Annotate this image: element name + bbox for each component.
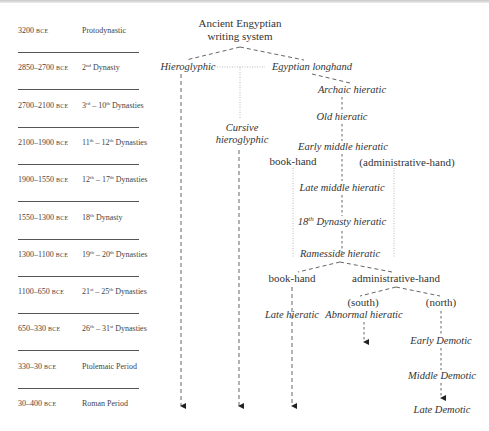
link-ramesside-adminhand — [340, 262, 392, 272]
node-middle-demotic: Middle Demotic — [408, 370, 476, 382]
node-administrative-hand-1: (administrative-hand) — [359, 156, 454, 169]
tree-connectors — [0, 0, 489, 431]
link-root-longhand — [240, 47, 304, 60]
node-root-line2: writing system — [199, 30, 282, 43]
node-early-middle-hieratic: Early middle hieratic — [298, 141, 388, 153]
link-longhand-archaic — [312, 74, 350, 83]
dynasty-hieratic-text: Dynasty hieratic — [314, 216, 386, 227]
node-old-hieratic: Old hieratic — [316, 111, 367, 123]
dynasty-number: 18 — [298, 216, 309, 227]
node-late-hieratic: Late hieratic — [265, 309, 319, 321]
node-cursive-line2: hieroglyphic — [216, 134, 269, 146]
node-early-demotic: Early Demotic — [410, 335, 472, 347]
link-admin-south — [360, 287, 396, 296]
link-root-hieroglyphic — [186, 47, 240, 60]
link-admin-north — [396, 287, 440, 296]
link-ramesside-bookhand — [298, 262, 340, 272]
node-book-hand-2: book-hand — [268, 272, 315, 285]
node-administrative-hand-2: administrative-hand — [352, 272, 440, 285]
node-18th-dynasty-hieratic: 18th Dynasty hieratic — [298, 215, 386, 228]
node-archaic-hieratic: Archaic hieratic — [318, 84, 386, 96]
node-north: (north) — [426, 296, 457, 309]
node-egyptian-longhand: Egyptian longhand — [272, 61, 352, 73]
node-root-line1: Ancient Engyptian — [199, 17, 282, 30]
node-cursive-hieroglyphic: Cursive hieroglyphic — [216, 122, 269, 146]
node-ramesside-hieratic: Ramesside hieratic — [300, 248, 380, 260]
node-south: (south) — [347, 296, 378, 309]
node-root: Ancient Engyptian writing system — [199, 17, 282, 42]
node-late-demotic: Late Demotic — [414, 404, 471, 416]
node-hieroglyphic: Hieroglyphic — [160, 61, 215, 73]
node-abnormal-hieratic: Abnormal hieratic — [325, 309, 402, 321]
node-book-hand-1: book-hand — [269, 155, 316, 168]
node-late-middle-hieratic: Late middle hieratic — [299, 182, 384, 194]
node-cursive-line1: Cursive — [216, 122, 269, 134]
